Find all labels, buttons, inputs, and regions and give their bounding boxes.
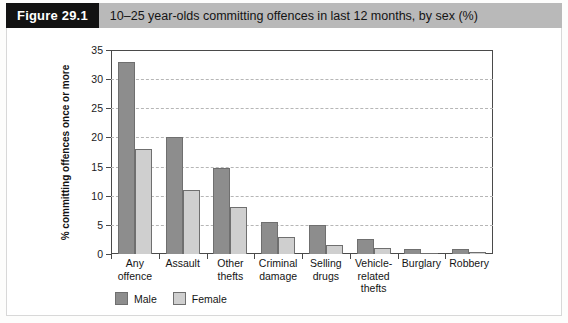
legend-item-male[interactable]: Male (115, 292, 157, 305)
bar-groups (111, 50, 493, 254)
figure-container: Figure 29.1 10–25 year-olds committing o… (0, 0, 568, 323)
y-axis-tick-label: 15 (91, 161, 103, 173)
y-axis-tick-label: 25 (91, 102, 103, 114)
bar-female[interactable] (421, 253, 438, 255)
figure-caption: 10–25 year-olds committing offences in l… (99, 3, 562, 28)
bar-male[interactable] (261, 222, 278, 254)
bar-female[interactable] (135, 149, 152, 254)
legend-label: Male (134, 293, 157, 305)
legend-swatch-female (173, 292, 186, 305)
bar-male[interactable] (452, 249, 469, 254)
bar-group (111, 50, 159, 254)
plot-area: 05101520253035 (111, 50, 493, 254)
chart-legend: MaleFemale (115, 292, 227, 305)
y-axis-tick-label: 20 (91, 131, 103, 143)
bar-male[interactable] (118, 62, 135, 254)
bar-male[interactable] (213, 168, 230, 254)
figure-header: Figure 29.1 10–25 year-olds committing o… (6, 3, 562, 28)
x-axis-category-label: Robbery (445, 257, 493, 295)
figure-body: % committing offences once or more 05101… (6, 28, 562, 316)
x-axis-category-label: Criminal damage (254, 257, 302, 295)
x-axis-category-label: Selling drugs (302, 257, 350, 295)
bar-group (207, 50, 255, 254)
bar-female[interactable] (469, 252, 486, 254)
bar-group (254, 50, 302, 254)
bar-female[interactable] (326, 245, 343, 254)
bar-male[interactable] (404, 249, 421, 254)
y-axis-tick-label: 5 (97, 219, 103, 231)
bar-female[interactable] (278, 237, 295, 254)
bar-male[interactable] (357, 239, 374, 254)
x-axis-category-labels: Any offenceAssaultOther theftsCriminal d… (111, 257, 493, 295)
bar-male[interactable] (166, 137, 183, 254)
legend-label: Female (192, 293, 227, 305)
bar-group (302, 50, 350, 254)
y-axis-tick-label: 10 (91, 190, 103, 202)
y-axis-title: % committing offences once or more (59, 50, 73, 254)
legend-item-female[interactable]: Female (173, 292, 227, 305)
x-axis-category-label: Assault (159, 257, 207, 295)
x-axis-category-label: Any offence (111, 257, 159, 295)
bar-group (159, 50, 207, 254)
bar-female[interactable] (183, 190, 200, 254)
y-axis-tick-label: 0 (97, 248, 103, 260)
bar-female[interactable] (230, 207, 247, 254)
figure-number-tag: Figure 29.1 (6, 3, 99, 28)
bar-male[interactable] (309, 225, 326, 254)
bar-female[interactable] (374, 248, 391, 254)
bar-group (350, 50, 398, 254)
y-axis-tick-label: 35 (91, 44, 103, 56)
bar-group (398, 50, 446, 254)
bar-group (445, 50, 493, 254)
y-axis-tick-label: 30 (91, 73, 103, 85)
legend-swatch-male (115, 292, 128, 305)
x-axis-category-label: Burglary (398, 257, 446, 295)
x-axis-category-label: Vehicle-related thefts (350, 257, 398, 295)
x-axis-category-label: Other thefts (207, 257, 255, 295)
y-axis-title-text: % committing offences once or more (61, 64, 72, 240)
